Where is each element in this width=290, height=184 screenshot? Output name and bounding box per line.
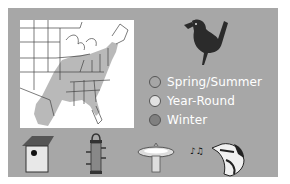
legend-label: Year-Round <box>167 94 235 108</box>
legend-label: Spring/Summer <box>167 75 262 89</box>
wren-bird-icon <box>180 15 232 67</box>
spring-summer-swatch-icon <box>149 76 161 88</box>
bird-info-panel: Spring/Summer Year-Round Winter ♪♫ <box>8 8 278 177</box>
legend-label: Winter <box>167 113 207 127</box>
winter-swatch-icon <box>149 114 161 126</box>
season-legend: Spring/Summer Year-Round Winter <box>149 73 262 130</box>
legend-item-year-round: Year-Round <box>149 92 262 110</box>
tube-feeder-icon <box>84 132 108 176</box>
music-notes-icon: ♪♫ <box>190 146 204 156</box>
singing-woodpecker-icon: ♪♫ <box>190 138 250 178</box>
range-map <box>20 20 134 128</box>
us-map-icon <box>20 20 134 128</box>
birdbath-icon <box>136 142 176 174</box>
birdhouse-icon <box>20 136 56 174</box>
legend-item-winter: Winter <box>149 111 262 129</box>
year-round-swatch-icon <box>149 95 161 107</box>
legend-item-spring-summer: Spring/Summer <box>149 73 262 91</box>
